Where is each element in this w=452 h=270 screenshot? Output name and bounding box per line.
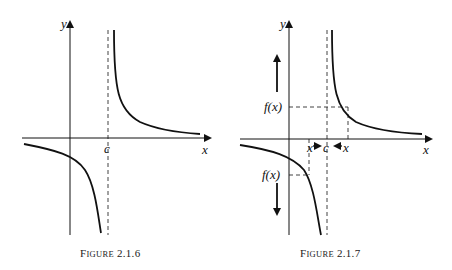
fx-upper-label: f(x) — [264, 100, 282, 113]
left-branch-curve — [24, 144, 101, 233]
right-branch-curve — [332, 30, 422, 134]
figure-2-1-6 — [22, 22, 210, 235]
figure-caption: FIGURE 2.1.6 — [80, 247, 140, 259]
asymptote-label: c — [323, 141, 329, 154]
figures-canvas — [0, 0, 452, 270]
x-axis-label: x — [423, 143, 429, 156]
left-branch-curve — [240, 145, 321, 235]
asymptote-label: c — [104, 142, 110, 155]
x-right-label: x — [343, 141, 349, 154]
y-axis-label: y — [280, 17, 286, 30]
figure-2-1-7 — [240, 22, 431, 235]
fx-lower-label: f(x) — [262, 168, 280, 181]
right-branch-curve — [114, 30, 200, 134]
y-axis-label: y — [61, 17, 67, 30]
x-axis-label: x — [202, 143, 208, 156]
x-left-label: x — [307, 141, 313, 154]
figure-caption: FIGURE 2.1.7 — [300, 247, 360, 259]
